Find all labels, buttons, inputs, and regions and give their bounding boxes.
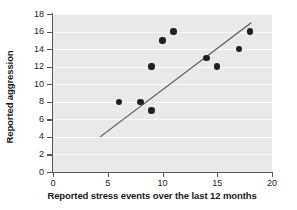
scatter-plot-figure: Reported aggression 024681012141618 0510… xyxy=(0,0,297,210)
y-tick-mark xyxy=(47,137,52,138)
data-point xyxy=(116,99,122,105)
data-point xyxy=(148,63,154,69)
x-axis-title: Reported stress events over the last 12 … xyxy=(16,190,288,201)
y-tick-label: 2 xyxy=(14,150,44,159)
gridline-horizontal xyxy=(53,14,272,15)
data-point xyxy=(170,28,176,34)
y-tick-mark xyxy=(47,102,52,103)
gridline-horizontal xyxy=(53,84,272,85)
y-tick-mark xyxy=(47,32,52,33)
x-tick-label: 0 xyxy=(41,179,65,188)
gridline-horizontal xyxy=(53,102,272,103)
data-point xyxy=(137,99,143,105)
gridline-horizontal xyxy=(53,32,272,33)
data-point xyxy=(159,37,165,43)
gridline-horizontal xyxy=(53,67,272,68)
y-tick-label: 12 xyxy=(14,62,44,71)
x-tick-mark xyxy=(217,172,218,177)
y-tick-label: 16 xyxy=(14,27,44,36)
x-tick-mark xyxy=(163,172,164,177)
x-tick-mark xyxy=(53,172,54,177)
x-tick-label: 5 xyxy=(96,179,120,188)
data-point xyxy=(203,55,209,61)
y-tick-mark xyxy=(47,14,52,15)
y-tick-mark xyxy=(47,49,52,50)
x-tick-mark xyxy=(108,172,109,177)
y-tick-mark xyxy=(47,67,52,68)
y-tick-label: 6 xyxy=(14,115,44,124)
y-tick-label: 10 xyxy=(14,80,44,89)
y-tick-mark xyxy=(47,172,52,173)
y-tick-label: 18 xyxy=(14,10,44,19)
y-axis-line xyxy=(52,13,53,173)
y-tick-label: 4 xyxy=(14,132,44,141)
x-tick-label: 15 xyxy=(205,179,229,188)
x-tick-label: 10 xyxy=(151,179,175,188)
y-tick-label: 0 xyxy=(14,168,44,177)
x-tick-label: 20 xyxy=(260,179,284,188)
x-tick-mark xyxy=(272,172,273,177)
gridline-horizontal xyxy=(53,154,272,155)
data-point xyxy=(247,28,253,34)
gridline-horizontal xyxy=(53,119,272,120)
y-tick-mark xyxy=(47,119,52,120)
data-point xyxy=(148,107,154,113)
y-tick-label: 8 xyxy=(14,97,44,106)
y-tick-mark xyxy=(47,84,52,85)
y-tick-label: 14 xyxy=(14,45,44,54)
gridline-horizontal xyxy=(53,137,272,138)
y-tick-mark xyxy=(47,154,52,155)
